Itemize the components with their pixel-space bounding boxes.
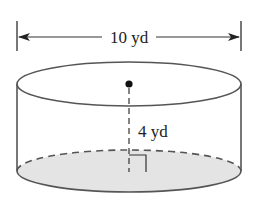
center-point-icon <box>125 80 132 87</box>
diameter-label: 10 yd <box>110 28 149 47</box>
diameter-dimension: 10 yd <box>17 21 241 51</box>
cylinder-diagram: 10 yd 4 yd <box>0 0 262 205</box>
height-label: 4 yd <box>138 122 168 141</box>
